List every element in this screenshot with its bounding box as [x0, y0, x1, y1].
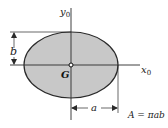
b-label: b [10, 45, 17, 58]
centroid-point [69, 63, 73, 67]
ellipse-diagram: b a G y0 x0 A = πab [0, 0, 168, 128]
centroid-label: G [61, 69, 70, 80]
area-formula: A = πab [127, 110, 165, 120]
x-axis-label: x0 [141, 64, 151, 77]
y-axis-label: y0 [59, 6, 70, 19]
a-label: a [91, 102, 97, 113]
